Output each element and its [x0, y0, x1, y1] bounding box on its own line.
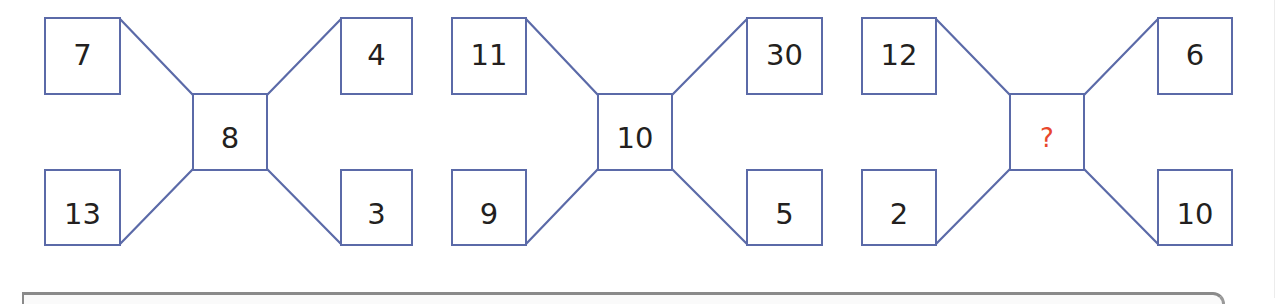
connector-line [1084, 19, 1158, 95]
number-value: 2 [890, 197, 908, 231]
top-right-number-box: 30 [746, 17, 823, 95]
connector-line [120, 169, 193, 244]
bottom-left-number-box: 13 [44, 169, 121, 246]
number-value: 12 [881, 38, 918, 72]
top-right-number-box: 6 [1157, 17, 1233, 95]
number-value: 13 [64, 197, 101, 231]
number-value: 10 [1177, 197, 1214, 231]
top-right-number-box: 4 [340, 17, 413, 95]
number-value: 10 [617, 121, 654, 155]
question-mark: ? [1040, 123, 1054, 153]
number-value: 8 [221, 121, 239, 155]
connector-line [936, 19, 1010, 95]
bottom-right-number-box: 5 [746, 169, 823, 246]
number-value: 7 [73, 38, 91, 72]
connector-line [936, 169, 1010, 244]
number-value: 3 [367, 197, 385, 231]
connector-line [672, 19, 747, 95]
number-value: 30 [766, 38, 803, 72]
number-value: 9 [480, 197, 498, 231]
bottom-right-number-box: 10 [1157, 169, 1233, 246]
number-value: 5 [775, 197, 793, 231]
bottom-left-number-box: 2 [861, 169, 937, 246]
top-left-number-box: 11 [451, 17, 527, 95]
top-left-number-box: 12 [861, 17, 937, 95]
number-value: 4 [367, 38, 385, 72]
page-edge-divider [1274, 0, 1275, 298]
bottom-right-number-box: 3 [340, 169, 413, 246]
connector-line [267, 19, 341, 95]
center-number-box: 8 [192, 93, 268, 171]
unknown-center-box: ? [1009, 93, 1085, 171]
bottom-left-number-box: 9 [451, 169, 527, 246]
connector-line [672, 169, 747, 244]
answer-bar [22, 292, 1225, 304]
number-value: 6 [1186, 38, 1204, 72]
top-left-number-box: 7 [44, 17, 121, 95]
center-number-box: 10 [597, 93, 673, 171]
connector-line [526, 169, 598, 244]
number-value: 11 [471, 38, 508, 72]
connector-line [526, 19, 598, 95]
connector-line [1084, 169, 1158, 244]
connector-line [267, 169, 341, 244]
connector-line [120, 19, 193, 95]
